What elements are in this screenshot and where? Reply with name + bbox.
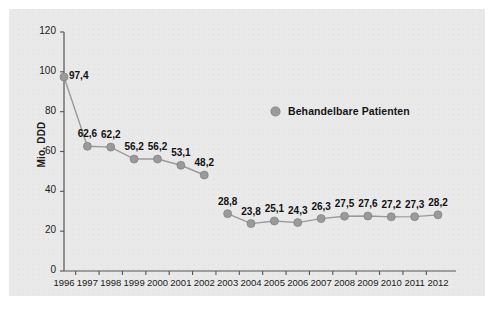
data-point-marker [411,213,419,221]
data-point-marker [177,161,185,169]
y-tick-label: 80 [30,105,56,116]
data-point-marker [107,143,115,151]
y-tick-label: 40 [30,184,56,195]
data-point-marker [270,217,278,225]
data-point-label: 62,2 [94,129,128,140]
data-point-marker [294,219,302,227]
data-point-marker [434,211,442,219]
data-point-marker [224,210,232,218]
legend-marker-icon [271,107,280,116]
y-tick-label: 60 [30,145,56,156]
data-point-label: 28,2 [421,197,455,208]
chart-legend: Behandelbare Patienten [271,105,410,117]
data-point-marker [364,212,372,220]
data-point-marker [130,155,138,163]
data-point-marker [387,213,395,221]
data-point-label: 48,2 [187,157,221,168]
y-tick-label: 120 [30,25,56,36]
y-tick-label: 100 [30,65,56,76]
data-point-marker [247,220,255,228]
y-tick-label: 0 [30,264,56,275]
data-point-marker [317,215,325,223]
plot-area [9,9,485,296]
data-point-marker [341,212,349,220]
data-point-marker [60,73,68,81]
data-point-marker [154,155,162,163]
chart-figure: Mio. DDD 020406080100120 199619971998199… [0,0,494,315]
legend-label: Behandelbare Patienten [288,105,410,117]
plot-panel: Mio. DDD 020406080100120 199619971998199… [9,9,485,296]
data-point-marker [83,142,91,150]
y-tick-label: 20 [30,224,56,235]
data-point-label: 97,4 [69,70,103,81]
x-tick-label: 2012 [421,277,455,288]
data-point-marker [200,171,208,179]
